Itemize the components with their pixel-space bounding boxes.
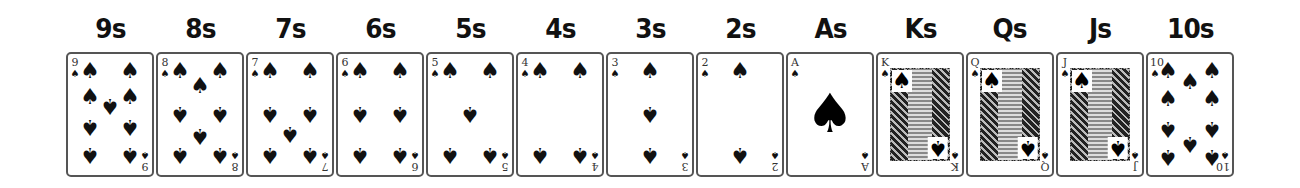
spade-icon: ♠	[1040, 150, 1050, 161]
spade-pip-icon: ♠	[100, 95, 120, 117]
spade-pip-icon: ♠	[730, 60, 750, 82]
card-index-bottom: 7♠	[320, 150, 330, 172]
card-index-bottom: 4♠	[590, 150, 600, 172]
card-label: 10s	[1167, 0, 1214, 52]
spade-pip-icon: ♠	[390, 144, 410, 166]
spade-pip-icon: ♠	[190, 75, 210, 97]
playing-card[interactable]: 2♠2♠♠♠	[696, 52, 784, 177]
playing-card[interactable]: 6♠6♠♠♠♠♠♠♠	[336, 52, 424, 177]
spade-pip-icon: ♠	[170, 144, 190, 166]
card-column: 4s4♠4♠♠♠♠♠	[517, 0, 603, 177]
playing-card[interactable]: J♠J♠♠♠	[1056, 52, 1144, 177]
playing-card[interactable]: 3♠3♠♠♠♠	[606, 52, 694, 177]
spade-pip-icon: ♠	[460, 103, 480, 125]
spade-pip-icon: ♠	[1202, 118, 1222, 140]
spade-pip-icon: ♠	[1158, 118, 1178, 140]
spade-icon: ♠	[770, 150, 780, 161]
spade-pip-icon: ♠	[640, 103, 660, 125]
spade-icon: ♠	[500, 150, 510, 161]
spade-pip-icon: ♠	[350, 60, 370, 82]
card-index-bottom: 2♠	[770, 150, 780, 172]
spade-pip-icon: ♠	[260, 60, 280, 82]
card-index-bottom: Q♠	[1040, 150, 1050, 172]
card-rank: K	[951, 160, 959, 173]
card-label: 2s	[725, 0, 755, 52]
spade-icon: ♠	[340, 68, 350, 79]
spade-pip-icon: ♠	[80, 116, 100, 138]
spade-icon: ♠	[880, 68, 890, 79]
playing-card[interactable]: 9♠9♠♠♠♠♠♠♠♠♠♠	[66, 52, 154, 177]
card-rank: A	[861, 160, 869, 173]
card-rank: 4	[592, 160, 599, 173]
spade-icon: ♠	[982, 70, 1002, 92]
playing-card[interactable]: 4♠4♠♠♠♠♠	[516, 52, 604, 177]
card-index-top: A♠	[790, 57, 800, 79]
playing-card[interactable]: K♠K♠♠♠	[876, 52, 964, 177]
spade-pip-icon: ♠	[210, 103, 230, 125]
spade-pip-icon: ♠	[1158, 88, 1178, 110]
spade-icon: ♠	[1060, 68, 1070, 79]
card-column: 3s3♠3♠♠♠♠	[607, 0, 693, 177]
spade-pip-icon: ♠	[1158, 60, 1178, 82]
playing-card[interactable]: Q♠Q♠♠♠	[966, 52, 1054, 177]
card-index-top: 3♠	[610, 57, 620, 79]
spade-icon: ♠	[320, 150, 330, 161]
spade-pip-icon: ♠	[300, 103, 320, 125]
spade-icon: ♠	[892, 70, 912, 92]
spade-pip-icon: ♠	[1202, 146, 1222, 168]
card-rank: Q	[1040, 160, 1049, 173]
card-rank: 8	[232, 160, 239, 173]
card-index-bottom: 5♠	[500, 150, 510, 172]
spade-icon: ♠	[950, 150, 960, 161]
card-index-top: 8♠	[160, 57, 170, 79]
spade-pip-icon: ♠	[390, 103, 410, 125]
spade-pip-icon: ♠	[80, 86, 100, 108]
spade-icon: ♠	[140, 150, 150, 161]
card-index-top: 7♠	[250, 57, 260, 79]
face-card-portrait: ♠♠	[1070, 68, 1130, 161]
spade-pip-icon: ♠	[280, 123, 300, 145]
card-column: 10s10♠10♠♠♠♠♠♠♠♠♠♠♠	[1147, 0, 1233, 177]
playing-card[interactable]: 5♠5♠♠♠♠♠♠	[426, 52, 514, 177]
spade-icon: ♠	[610, 68, 620, 79]
card-label: Js	[1089, 0, 1111, 52]
playing-card[interactable]: 10♠10♠♠♠♠♠♠♠♠♠♠♠	[1146, 52, 1234, 177]
spade-pip-icon: ♠	[350, 103, 370, 125]
spade-pip-icon: ♠	[300, 144, 320, 166]
card-label: Ks	[904, 0, 936, 52]
large-spade-icon: ♠	[806, 86, 854, 140]
card-rank: 6	[412, 160, 419, 173]
card-index-bottom: 6♠	[410, 150, 420, 172]
spade-pip-icon: ♠	[570, 60, 590, 82]
card-label: As	[814, 0, 846, 52]
spade-pip-icon: ♠	[1202, 88, 1222, 110]
spade-icon: ♠	[590, 150, 600, 161]
spade-pip-icon: ♠	[1180, 71, 1200, 93]
card-index-top: J♠	[1060, 57, 1070, 79]
spade-pip-icon: ♠	[170, 60, 190, 82]
spade-pip-icon: ♠	[210, 60, 230, 82]
spade-pip-icon: ♠	[80, 60, 100, 82]
spade-pip-icon: ♠	[440, 60, 460, 82]
card-label: 7s	[275, 0, 305, 52]
card-label: 3s	[635, 0, 665, 52]
playing-card[interactable]: A♠A♠♠	[786, 52, 874, 177]
card-label: 5s	[455, 0, 485, 52]
card-column: 6s6♠6♠♠♠♠♠♠♠	[337, 0, 423, 177]
spade-icon: ♠	[250, 68, 260, 79]
spade-pip-icon: ♠	[350, 144, 370, 166]
spade-pip-icon: ♠	[210, 144, 230, 166]
playing-card[interactable]: 8♠8♠♠♠♠♠♠♠♠♠	[156, 52, 244, 177]
spade-pip-icon: ♠	[480, 60, 500, 82]
spade-pip-icon: ♠	[390, 60, 410, 82]
playing-card[interactable]: 7♠7♠♠♠♠♠♠♠♠	[246, 52, 334, 177]
spade-pip-icon: ♠	[120, 60, 140, 82]
card-rank: J	[1133, 160, 1137, 173]
spade-icon: ♠	[160, 68, 170, 79]
card-column: 8s8♠8♠♠♠♠♠♠♠♠♠	[157, 0, 243, 177]
card-column: JsJ♠J♠♠♠	[1057, 0, 1143, 177]
card-index-bottom: J♠	[1130, 150, 1140, 172]
card-index-bottom: A♠	[860, 150, 870, 172]
face-card-portrait: ♠♠	[890, 68, 950, 161]
card-column: 5s5♠5♠♠♠♠♠♠	[427, 0, 513, 177]
